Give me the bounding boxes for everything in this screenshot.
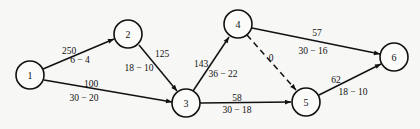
edge-4-6-time: 30 − 16 <box>298 46 327 56</box>
node-5-label: 5 <box>304 97 309 108</box>
edge-3-5 <box>200 102 291 103</box>
edge-5-6-cost: 62 <box>331 75 341 85</box>
edge-4-5-cost: 0 <box>269 53 274 63</box>
node-5: 5 <box>292 88 320 116</box>
edge-3-4-time: 36 − 22 <box>208 69 237 79</box>
edge-1-3 <box>44 80 172 102</box>
node-2: 2 <box>114 20 142 48</box>
node-6-label: 6 <box>392 52 397 63</box>
edge-1-3-time: 30 − 20 <box>69 93 98 103</box>
edge-2-3-cost: 125 <box>155 49 170 59</box>
edge-3-4-cost: 143 <box>194 59 209 69</box>
edge-1-2-time: 6 − 4 <box>70 55 90 65</box>
edge-5-6-time: 18 − 10 <box>338 87 367 97</box>
edge-1-3-cost: 100 <box>84 79 99 89</box>
edge-3-5-time: 30 − 18 <box>222 105 251 115</box>
node-3: 3 <box>172 89 200 117</box>
edge-4-6-cost: 57 <box>312 28 322 38</box>
edge-3-5-cost: 58 <box>232 93 242 103</box>
node-6: 6 <box>380 43 408 71</box>
node-3-label: 3 <box>184 98 189 109</box>
node-4-label: 4 <box>236 19 241 30</box>
node-1-label: 1 <box>28 70 33 81</box>
node-4: 4 <box>224 10 252 38</box>
network-diagram: 250 6 − 4 100 30 − 20 125 18 − 10 143 36… <box>0 0 420 129</box>
node-1: 1 <box>16 61 44 89</box>
edge-2-3-time: 18 − 10 <box>124 63 153 73</box>
node-2-label: 2 <box>126 29 131 40</box>
